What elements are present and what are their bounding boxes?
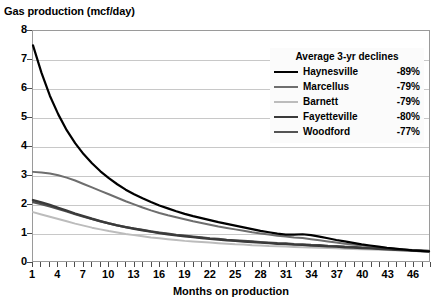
x-tick-label: 28 xyxy=(248,269,274,280)
gas-production-chart: Gas production (mcf/day) 012345678 14710… xyxy=(0,0,448,305)
y-tick-label: 2 xyxy=(5,198,27,209)
legend-swatch-icon xyxy=(274,131,298,133)
y-tick-label: 1 xyxy=(5,227,27,238)
legend-label: Woodford xyxy=(303,126,397,137)
legend-decline-value: -79% xyxy=(397,81,420,92)
y-tick-label: 3 xyxy=(5,169,27,180)
x-tick-label: 34 xyxy=(298,269,324,280)
chart-title: Gas production (mcf/day) xyxy=(4,5,135,17)
x-tick-mark xyxy=(278,262,279,267)
legend-label: Haynesville xyxy=(303,66,397,77)
x-tick-mark xyxy=(379,262,380,267)
legend-item-fayetteville[interactable]: Fayetteville-80% xyxy=(274,109,420,124)
x-tick-mark xyxy=(83,262,84,267)
x-tick-mark xyxy=(320,262,321,267)
x-tick-label: 13 xyxy=(121,269,147,280)
x-tick-mark xyxy=(388,262,389,267)
x-tick-mark xyxy=(261,262,262,267)
x-tick-mark xyxy=(311,262,312,267)
x-tick-label: 37 xyxy=(324,269,350,280)
x-tick-mark xyxy=(244,262,245,267)
x-tick-mark xyxy=(49,262,50,267)
x-tick-mark xyxy=(201,262,202,267)
x-tick-mark xyxy=(345,262,346,267)
legend-swatch-icon xyxy=(274,116,298,118)
x-tick-mark xyxy=(362,262,363,267)
x-tick-mark xyxy=(371,262,372,267)
x-tick-mark xyxy=(252,262,253,267)
x-tick-label: 43 xyxy=(375,269,401,280)
x-tick-mark xyxy=(235,262,236,267)
x-tick-label: 25 xyxy=(222,269,248,280)
x-tick-label: 4 xyxy=(44,269,70,280)
x-tick-mark xyxy=(184,262,185,267)
x-tick-mark xyxy=(134,262,135,267)
x-tick-label: 16 xyxy=(146,269,172,280)
y-tick-label: 8 xyxy=(5,24,27,35)
x-tick-mark xyxy=(295,262,296,267)
x-tick-label: 1 xyxy=(19,269,45,280)
legend-title: Average 3-yr declines xyxy=(274,51,420,62)
x-tick-mark xyxy=(218,262,219,267)
x-tick-mark xyxy=(108,262,109,267)
x-tick-mark xyxy=(176,262,177,267)
x-tick-mark xyxy=(91,262,92,267)
legend-swatch-icon xyxy=(274,101,298,103)
x-tick-label: 19 xyxy=(171,269,197,280)
legend-decline-value: -89% xyxy=(397,66,420,77)
x-tick-mark xyxy=(405,262,406,267)
x-tick-mark xyxy=(210,262,211,267)
x-tick-label: 7 xyxy=(70,269,96,280)
legend-item-barnett[interactable]: Barnett-79% xyxy=(274,94,420,109)
legend: Average 3-yr declines Haynesville-89%Mar… xyxy=(270,48,424,143)
x-tick-mark xyxy=(151,262,152,267)
x-tick-mark xyxy=(303,262,304,267)
legend-rows: Haynesville-89%Marcellus-79%Barnett-79%F… xyxy=(274,64,420,139)
legend-label: Marcellus xyxy=(303,81,397,92)
x-tick-mark xyxy=(193,262,194,267)
x-tick-label: 10 xyxy=(95,269,121,280)
legend-swatch-icon xyxy=(274,86,298,88)
x-tick-mark xyxy=(422,262,423,267)
x-tick-mark xyxy=(286,262,287,267)
x-tick-mark xyxy=(40,262,41,267)
y-tick-label: 0 xyxy=(5,256,27,267)
x-tick-mark xyxy=(57,262,58,267)
x-tick-mark xyxy=(32,262,33,267)
x-tick-mark xyxy=(66,262,67,267)
x-tick-label: 40 xyxy=(349,269,375,280)
x-tick-mark xyxy=(269,262,270,267)
x-tick-mark xyxy=(430,262,431,267)
x-tick-mark xyxy=(117,262,118,267)
y-tick-label: 5 xyxy=(5,111,27,122)
x-tick-mark xyxy=(328,262,329,267)
legend-item-woodford[interactable]: Woodford-77% xyxy=(274,124,420,139)
legend-item-haynesville[interactable]: Haynesville-89% xyxy=(274,64,420,79)
x-tick-mark xyxy=(74,262,75,267)
legend-decline-value: -77% xyxy=(397,126,420,137)
x-tick-mark xyxy=(100,262,101,267)
y-tick-label: 6 xyxy=(5,82,27,93)
x-tick-mark xyxy=(413,262,414,267)
legend-decline-value: -79% xyxy=(397,96,420,107)
x-tick-mark xyxy=(142,262,143,267)
x-tick-mark xyxy=(396,262,397,267)
x-tick-mark xyxy=(125,262,126,267)
legend-item-marcellus[interactable]: Marcellus-79% xyxy=(274,79,420,94)
x-tick-label: 46 xyxy=(400,269,426,280)
x-tick-mark xyxy=(167,262,168,267)
x-tick-label: 22 xyxy=(197,269,223,280)
legend-label: Fayetteville xyxy=(303,111,397,122)
legend-swatch-icon xyxy=(274,71,298,73)
x-tick-label: 31 xyxy=(273,269,299,280)
x-axis-title: Months on production xyxy=(32,285,430,297)
x-tick-mark xyxy=(337,262,338,267)
y-tick-label: 7 xyxy=(5,53,27,64)
x-tick-mark xyxy=(227,262,228,267)
y-tick-label: 4 xyxy=(5,140,27,151)
legend-label: Barnett xyxy=(303,96,397,107)
x-tick-mark xyxy=(159,262,160,267)
x-tick-mark xyxy=(354,262,355,267)
legend-decline-value: -80% xyxy=(397,111,420,122)
